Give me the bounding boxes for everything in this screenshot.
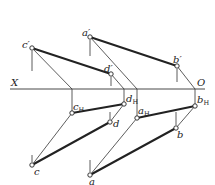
axis-label-o: O: [197, 77, 205, 88]
label-dH: dH: [126, 93, 138, 106]
label-d: d: [113, 118, 119, 129]
projection-diagram: X O c′ a′ d′ b′ cH dH aH bH c d a b: [0, 0, 215, 185]
label-c-prime: c′: [22, 39, 31, 50]
point-c-prime: [30, 46, 34, 50]
point-d: [108, 120, 112, 124]
diagram-svg: X O c′ a′ d′ b′ cH dH aH bH c d a b: [0, 0, 215, 185]
label-bH: bH: [197, 94, 209, 107]
line-c-prime-d-prime: [32, 48, 111, 74]
label-d-prime: d′: [104, 63, 113, 74]
line-c-d: [32, 122, 110, 165]
axis-label-x: X: [10, 77, 19, 88]
projector-b-prime: [177, 66, 195, 89]
label-a-prime: a′: [82, 27, 91, 38]
label-aH: aH: [138, 105, 150, 118]
projector-c: [32, 113, 72, 165]
projector-d-prime: [111, 74, 124, 89]
point-aH: [135, 116, 139, 120]
label-c: c: [34, 166, 40, 177]
label-b-prime: b′: [173, 54, 182, 65]
label-b: b: [177, 129, 183, 140]
label-a: a: [89, 176, 95, 185]
line-a-b: [90, 128, 176, 175]
